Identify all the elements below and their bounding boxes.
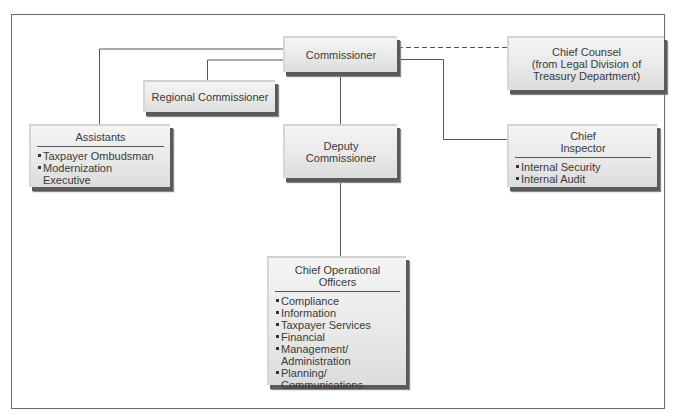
item-text: Taxpayer Services bbox=[281, 319, 371, 331]
node-item: Compliance bbox=[276, 295, 406, 307]
item-text: Internal Security bbox=[521, 161, 600, 173]
node-commissioner: Commissioner bbox=[283, 36, 397, 72]
title-divider bbox=[275, 291, 400, 292]
node-title: Regional Commissioner bbox=[152, 91, 269, 103]
item-text: Communications bbox=[281, 379, 406, 391]
node-item: Information bbox=[276, 307, 406, 319]
node-title-line: Commissioner bbox=[306, 152, 376, 164]
node-item: Internal Audit bbox=[516, 173, 657, 185]
edge-commissioner-chief-inspector bbox=[398, 60, 508, 140]
node-item: Management/Administration bbox=[276, 343, 406, 367]
node-title-line: Inspector bbox=[509, 142, 657, 154]
node-chief-counsel: Chief Counsel (from Legal Division of Tr… bbox=[507, 36, 664, 90]
node-title-line: Chief Counsel bbox=[552, 46, 621, 58]
item-text: Compliance bbox=[281, 295, 339, 307]
item-text: Administration bbox=[281, 355, 406, 367]
node-chief-inspector: Chief Inspector Internal Security Intern… bbox=[507, 124, 657, 187]
node-title-line: Chief bbox=[509, 130, 657, 142]
node-items: Taxpayer Ombudsman ModernizationExecutiv… bbox=[31, 150, 170, 186]
node-item: ModernizationExecutive bbox=[38, 162, 170, 186]
node-regional-commissioner: Regional Commissioner bbox=[143, 80, 275, 112]
node-item: Taxpayer Services bbox=[276, 319, 406, 331]
node-title-line: Deputy bbox=[324, 140, 359, 152]
edge-commissioner-regional bbox=[208, 60, 285, 81]
node-items: Internal Security Internal Audit bbox=[509, 161, 657, 185]
node-title-line: (from Legal Division of bbox=[532, 58, 641, 70]
node-title-line: Officers bbox=[269, 276, 406, 288]
node-items: Compliance Information Taxpayer Services… bbox=[269, 295, 406, 391]
item-text: Information bbox=[281, 307, 336, 319]
item-text: Management/ bbox=[281, 343, 406, 355]
item-text: Executive bbox=[43, 174, 170, 186]
node-deputy-commissioner: Deputy Commissioner bbox=[283, 124, 397, 178]
node-item: Taxpayer Ombudsman bbox=[38, 150, 170, 162]
item-text: Financial bbox=[281, 331, 325, 343]
node-title: Assistants bbox=[31, 131, 170, 143]
node-title: Commissioner bbox=[306, 49, 376, 61]
item-text: Taxpayer Ombudsman bbox=[43, 150, 154, 162]
node-item: Internal Security bbox=[516, 161, 657, 173]
node-item: Planning/Communications bbox=[276, 367, 406, 391]
node-assistants: Assistants Taxpayer Ombudsman Modernizat… bbox=[29, 124, 170, 187]
item-text: Planning/ bbox=[281, 367, 406, 379]
node-title-line: Treasury Department) bbox=[533, 70, 640, 82]
item-text: Internal Audit bbox=[521, 173, 585, 185]
item-text: Modernization bbox=[43, 162, 170, 174]
node-chief-operational-officers: Chief Operational Officers Compliance In… bbox=[267, 256, 406, 385]
node-item: Financial bbox=[276, 331, 406, 343]
title-divider bbox=[37, 146, 164, 147]
title-divider bbox=[515, 157, 651, 158]
node-title-line: Chief Operational bbox=[269, 264, 406, 276]
